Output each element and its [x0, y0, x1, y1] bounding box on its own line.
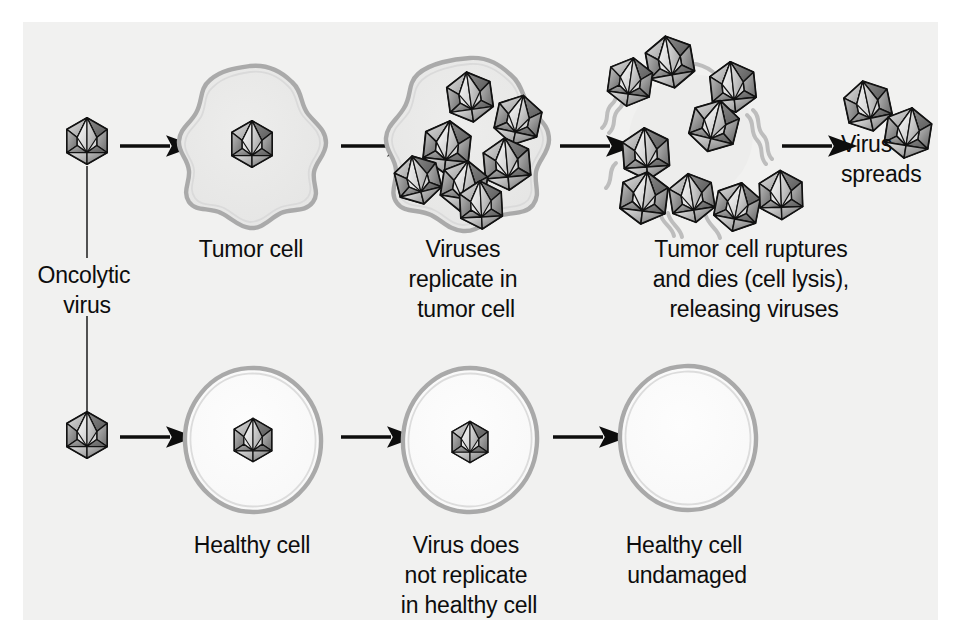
label-healthy-undamaged: Healthy cell undamaged	[626, 532, 749, 588]
healthy-cell-undamaged	[616, 363, 759, 514]
tumor-cell-replicating	[386, 58, 549, 231]
healthy-cell-membrane-outer-3	[616, 363, 759, 514]
label-virus-not-replicate: Virus does not replicate in healthy cell	[401, 532, 537, 618]
label-tumor-ruptures: Tumor cell ruptures and dies (cell lysis…	[653, 236, 855, 322]
healthy-pathway	[67, 362, 760, 517]
figure-root: Oncolytic virus Tumor cell Viruses repli…	[0, 0, 961, 643]
label-healthy-cell: Healthy cell	[194, 532, 311, 558]
healthy-cell-no-replication	[397, 362, 543, 517]
oncolytic-virus-particle-bottom	[67, 412, 107, 458]
virus-cluster-released	[606, 32, 803, 235]
oncolytic-virus-particle-top	[67, 118, 107, 164]
label-oncolytic-virus: Oncolytic virus	[38, 262, 137, 318]
label-viruses-replicate: Viruses replicate in tumor cell	[408, 236, 523, 322]
oncolytic-virus-diagram: Oncolytic virus Tumor cell Viruses repli…	[0, 0, 961, 643]
tumor-cell-infected	[179, 66, 326, 228]
label-tumor-cell: Tumor cell	[199, 236, 304, 262]
tumor-pathway	[67, 32, 934, 412]
tumor-cell-lysed	[602, 32, 803, 238]
healthy-cell-entered	[180, 363, 326, 516]
